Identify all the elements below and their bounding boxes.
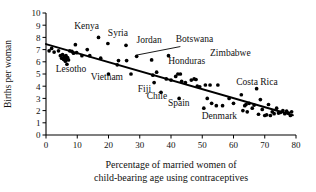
data-point	[99, 56, 103, 60]
data-point	[210, 101, 214, 105]
data-point	[80, 54, 84, 58]
data-point	[272, 112, 276, 116]
y-tick-label: 2	[36, 106, 41, 116]
data-point	[194, 78, 198, 82]
point-annotation-label: Lesotho	[56, 64, 87, 74]
x-tick-label: 20	[104, 140, 114, 150]
point-annotation-label: Honduras	[168, 56, 205, 66]
data-point	[152, 81, 156, 85]
data-point	[260, 108, 264, 112]
data-point	[241, 109, 245, 113]
data-point	[179, 72, 183, 76]
x-tick-label: 60	[229, 140, 239, 150]
x-axis-title-line1: Percentage of married women of	[105, 159, 237, 170]
data-point	[117, 59, 121, 63]
data-point	[50, 47, 54, 51]
data-point	[85, 48, 89, 52]
data-point	[245, 110, 249, 114]
x-axis-title-line2: child-bearing age using contraceptives	[94, 172, 248, 183]
data-point	[247, 101, 251, 105]
y-tick-label: 0	[36, 130, 41, 140]
data-point	[259, 98, 263, 102]
point-annotation-label: Jordan	[136, 35, 162, 45]
point-annotation-label: Vietnam	[91, 72, 124, 82]
data-point	[204, 83, 208, 87]
data-point	[205, 97, 209, 101]
data-point	[180, 79, 184, 83]
point-annotation-label: Syria	[108, 28, 129, 38]
data-point	[227, 97, 231, 101]
point-annotation-label: Zimbabwe	[210, 48, 251, 58]
y-tick-label: 9	[36, 21, 41, 31]
y-tick-label: 1	[36, 118, 41, 128]
data-point	[265, 113, 269, 117]
data-point	[198, 85, 202, 89]
y-tick-label: 4	[36, 82, 41, 92]
data-point	[216, 83, 220, 87]
data-point	[151, 73, 155, 77]
data-point	[169, 78, 173, 82]
point-annotation-label: Chile	[147, 91, 168, 101]
data-point	[267, 103, 271, 107]
data-point	[232, 101, 236, 105]
data-point	[202, 106, 206, 110]
data-point	[129, 72, 133, 76]
data-point	[255, 87, 259, 91]
data-point	[115, 63, 119, 67]
x-tick-label: 0	[44, 140, 49, 150]
data-point	[75, 51, 79, 55]
y-tick-label: 8	[36, 33, 41, 43]
data-point	[289, 114, 293, 118]
point-annotation-label: Costa Rica	[236, 77, 278, 87]
data-point	[290, 110, 294, 114]
scatter-plot-figure: 01234567891001020304050607080KenyaSyriaJ…	[0, 0, 316, 192]
data-point	[221, 104, 225, 108]
data-point	[257, 112, 261, 116]
x-tick-label: 30	[135, 140, 145, 150]
data-point	[164, 77, 168, 81]
y-tick-label: 5	[36, 69, 41, 79]
y-tick-label: 10	[32, 8, 42, 18]
y-tick-label: 6	[36, 57, 41, 67]
x-tick-label: 10	[73, 140, 83, 150]
point-annotation-label: Botswana	[176, 34, 214, 44]
data-point	[150, 58, 154, 62]
point-annotation-label: Kenya	[74, 21, 100, 31]
y-axis-title: Births per woman	[3, 40, 13, 108]
chart-svg: 01234567891001020304050607080KenyaSyriaJ…	[0, 0, 316, 192]
data-point	[269, 114, 273, 118]
data-point	[124, 43, 128, 47]
data-point	[72, 51, 76, 55]
data-point	[239, 93, 243, 97]
data-point	[214, 104, 218, 108]
annotation-leader-line	[137, 47, 181, 56]
data-point	[52, 50, 56, 54]
y-tick-label: 7	[36, 45, 41, 55]
x-tick-label: 70	[260, 140, 270, 150]
point-annotation-label: Spain	[168, 98, 190, 108]
data-point	[106, 42, 110, 46]
data-point	[252, 103, 256, 107]
point-annotation-label: Denmark	[202, 111, 238, 121]
data-point	[155, 70, 159, 74]
x-tick-label: 80	[292, 140, 302, 150]
data-point	[275, 106, 279, 110]
data-point	[88, 54, 92, 58]
data-point	[208, 83, 212, 87]
x-tick-label: 40	[167, 140, 177, 150]
data-point	[67, 58, 71, 62]
data-point	[97, 36, 101, 40]
data-point	[74, 43, 78, 47]
x-tick-label: 50	[198, 140, 208, 150]
data-point	[125, 59, 129, 63]
data-point	[57, 49, 61, 53]
y-tick-label: 3	[36, 94, 41, 104]
data-point	[184, 81, 188, 85]
